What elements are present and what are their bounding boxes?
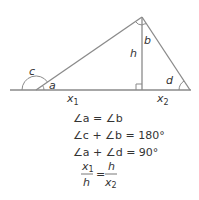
triangle-diagram: c a h b d x1 x2 ∠a = ∠b ∠c + ∠b = 180° ∠… — [0, 0, 199, 200]
ratio-right-numerator: h — [108, 160, 115, 173]
label-a: a — [49, 79, 56, 92]
label-c: c — [29, 65, 35, 78]
ratio-right-denominator: x2 — [104, 176, 117, 190]
label-x1: x1 — [66, 92, 79, 107]
ratio-left-denominator: h — [83, 176, 90, 189]
equation-1: ∠a = ∠b — [73, 112, 123, 125]
label-d: d — [166, 74, 174, 87]
label-h: h — [130, 47, 137, 60]
label-x2: x2 — [156, 92, 169, 107]
right-angle-marker — [136, 84, 142, 90]
angle-apex-arc — [135, 22, 142, 26]
equation-3: ∠a + ∠d = 90° — [73, 146, 158, 159]
ratio-equation: x1 h = h x2 — [81, 160, 117, 190]
angle-a-arc — [43, 86, 44, 91]
label-b: b — [144, 34, 151, 47]
ratio-equals: = — [96, 168, 105, 181]
angle-b-arc — [142, 24, 146, 25]
angle-d-arc — [179, 81, 184, 90]
ratio-left-numerator: x1 — [81, 160, 94, 174]
equation-2: ∠c + ∠b = 180° — [73, 129, 165, 142]
